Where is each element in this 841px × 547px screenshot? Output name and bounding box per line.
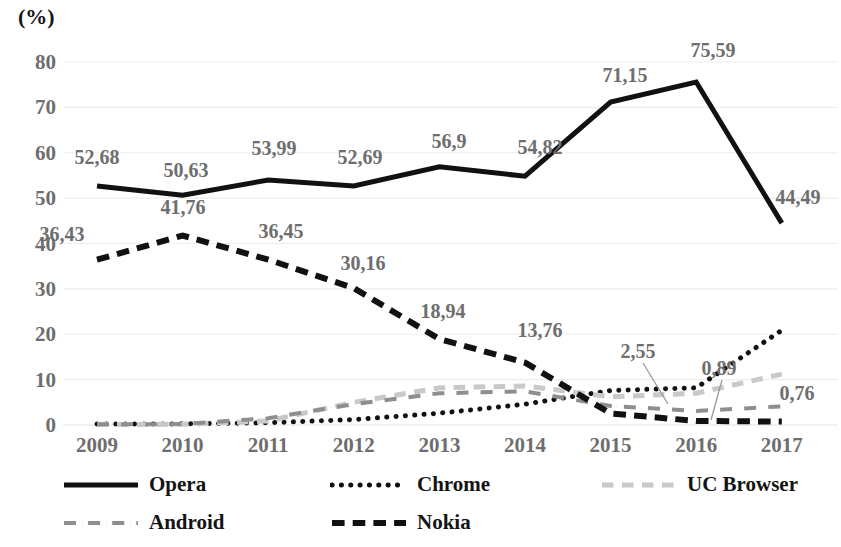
legend-item-nokia[interactable]: Nokia xyxy=(330,512,471,533)
legend-swatch-android-icon xyxy=(62,516,140,530)
data-label-opera-53-99: 53,99 xyxy=(252,137,297,160)
leader-line-0,89 xyxy=(711,380,722,420)
data-label-opera-52-69: 52,69 xyxy=(338,146,383,169)
data-label-opera-52-68: 52,68 xyxy=(75,146,120,169)
legend-swatch-nokia-icon xyxy=(330,516,408,530)
legend-swatch-chrome-icon xyxy=(330,478,408,492)
data-label-nokia-0-89: 0,89 xyxy=(702,357,737,380)
legend-swatch-opera-icon xyxy=(62,478,140,492)
legend-item-android[interactable]: Android xyxy=(62,512,224,533)
legend-label: UC Browser xyxy=(687,474,798,495)
chart-legend: OperaChromeUC BrowserAndroidNokia xyxy=(0,472,841,547)
data-label-nokia-2-55: 2,55 xyxy=(621,340,656,363)
plot-area xyxy=(0,0,841,547)
legend-label: Nokia xyxy=(417,512,471,533)
data-label-opera-71-15: 71,15 xyxy=(603,64,648,87)
series-lines xyxy=(0,0,841,547)
data-label-nokia-41-76: 41,76 xyxy=(161,196,206,219)
data-label-nokia-36-45: 36,45 xyxy=(259,220,304,243)
data-label-nokia-0-76: 0,76 xyxy=(780,382,815,405)
data-label-opera-50-63: 50,63 xyxy=(164,159,209,182)
legend-item-opera[interactable]: Opera xyxy=(62,474,206,495)
data-label-nokia-18-94: 18,94 xyxy=(421,300,466,323)
legend-item-chrome[interactable]: Chrome xyxy=(330,474,490,495)
line-chart: (%) 01020304050607080 200920102011201220… xyxy=(0,0,841,547)
legend-label: Opera xyxy=(149,474,206,495)
data-label-opera-54-82: 54,82 xyxy=(518,136,563,159)
legend-swatch-uc-browser-icon xyxy=(600,478,678,492)
data-label-opera-75-59: 75,59 xyxy=(691,39,736,62)
legend-label: Android xyxy=(149,512,224,533)
data-label-nokia-13-76: 13,76 xyxy=(518,319,563,342)
data-label-opera-44-49: 44,49 xyxy=(776,186,821,209)
data-label-nokia-36-43: 36,43 xyxy=(40,223,85,246)
legend-label: Chrome xyxy=(417,474,490,495)
leader-line-2,55 xyxy=(643,363,668,404)
legend-item-uc-browser[interactable]: UC Browser xyxy=(600,474,798,495)
data-label-opera-56-9: 56,9 xyxy=(432,130,467,153)
data-label-nokia-30-16: 30,16 xyxy=(341,252,386,275)
